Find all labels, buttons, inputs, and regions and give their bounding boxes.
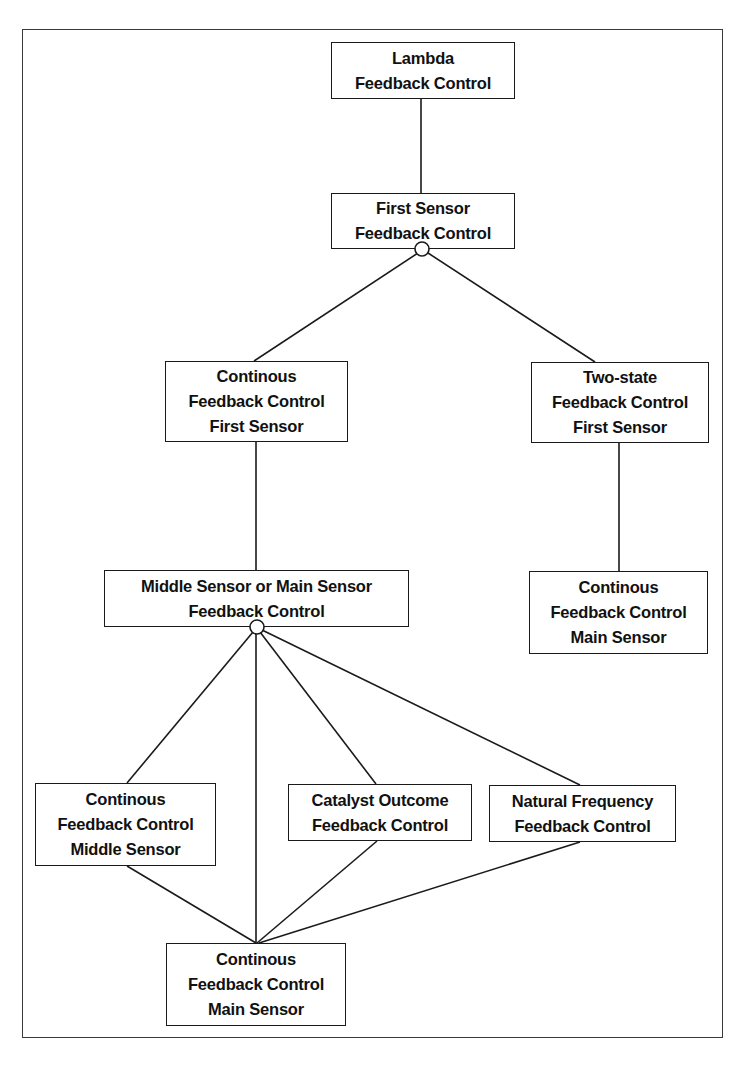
alternative-group-circle-icon bbox=[415, 242, 429, 256]
alternative-group-circle-icon bbox=[250, 620, 264, 634]
diagram-canvas: LambdaFeedback ControlFirst SensorFeedba… bbox=[0, 0, 739, 1069]
marker-layer bbox=[0, 0, 739, 1069]
